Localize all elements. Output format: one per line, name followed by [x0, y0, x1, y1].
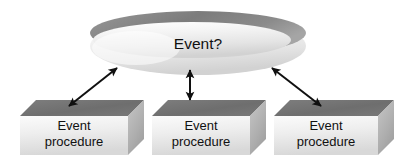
box-1-top-face [20, 100, 144, 116]
central-event-disc-label: Event? [174, 35, 223, 52]
central-event-disc[interactable]: Event? [90, 11, 306, 75]
event-procedure-box-2[interactable]: Event procedure [152, 100, 266, 155]
box-3-label-line1: Event [309, 118, 343, 133]
disc-highlight [92, 31, 180, 65]
box-2-label-line1: Event [184, 118, 218, 133]
box-1-label-line2: procedure [45, 134, 104, 149]
box-2-top-face [152, 100, 266, 116]
box-3-label-line2: procedure [297, 134, 356, 149]
event-procedure-box-1[interactable]: Event procedure [20, 100, 144, 155]
diagram-canvas: Event? Event procedure Event procedure E… [0, 0, 405, 163]
diagram-svg: Event? Event procedure Event procedure E… [0, 0, 405, 163]
box-1-label-line1: Event [57, 118, 91, 133]
event-procedure-box-3[interactable]: Event procedure [274, 100, 394, 155]
box-2-label-line2: procedure [172, 134, 231, 149]
box-3-top-face [274, 100, 394, 116]
